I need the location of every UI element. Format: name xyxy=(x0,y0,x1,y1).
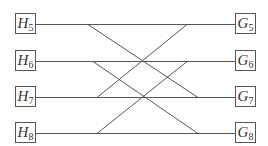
node-subscript: 8 xyxy=(248,131,253,142)
node-subscript: 6 xyxy=(28,59,33,70)
node-H8: H8 xyxy=(15,122,36,143)
node-H5: H5 xyxy=(15,13,36,34)
node-subscript: 5 xyxy=(28,22,33,33)
node-subscript: 5 xyxy=(248,22,253,33)
node-letter: H xyxy=(18,124,29,140)
node-letter: H xyxy=(18,15,29,31)
node-subscript: 7 xyxy=(248,95,253,106)
node-G7: G7 xyxy=(235,86,256,107)
node-letter: G xyxy=(238,52,249,68)
node-G5: G5 xyxy=(235,13,256,34)
node-H6: H6 xyxy=(15,50,36,71)
node-G6: G6 xyxy=(235,50,256,71)
node-H7: H7 xyxy=(15,86,36,107)
node-letter: G xyxy=(238,88,249,104)
node-G8: G8 xyxy=(235,122,256,143)
node-letter: G xyxy=(238,15,249,31)
connection-lines xyxy=(0,0,268,146)
node-subscript: 8 xyxy=(28,131,33,142)
node-letter: H xyxy=(18,52,29,68)
node-letter: H xyxy=(18,88,29,104)
node-letter: G xyxy=(238,124,249,140)
node-subscript: 6 xyxy=(248,59,253,70)
wiring-diagram: H5H6H7H8G5G6G7G8 xyxy=(0,0,268,146)
node-subscript: 7 xyxy=(28,95,33,106)
